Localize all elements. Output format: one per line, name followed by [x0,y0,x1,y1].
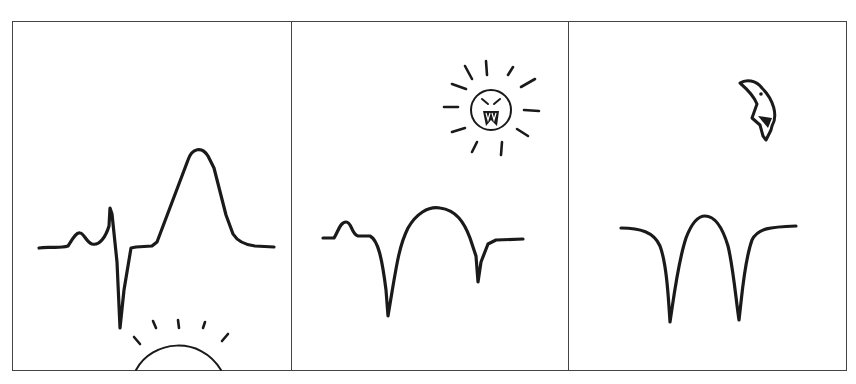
ecg-waveform-panel-2 [323,208,523,316]
comic-artwork [0,0,856,384]
ecg-waveform-panel-3 [621,216,796,322]
fanged-mouth-icon [483,111,499,126]
rising-sun-icon [134,320,228,370]
moon-eye-icon [759,92,763,96]
crescent-moon-icon [740,81,775,140]
panel-3 [621,81,796,322]
angry-sun-icon [444,61,539,155]
ecg-waveform-panel-1 [39,150,274,328]
panel-1 [39,150,274,370]
panel-2 [323,61,539,316]
